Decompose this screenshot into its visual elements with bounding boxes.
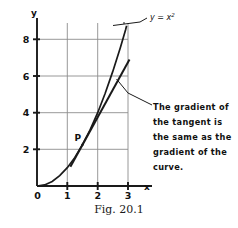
leader-annotation-path [117,79,153,105]
annotation-text-block: The gradient of the tangent is the same … [153,102,232,172]
vertical-gridlines [67,23,128,186]
y-tick-label-6: 6 [23,71,30,82]
curve-label-leader [113,18,147,26]
curve-equation-label: y = x2 [149,12,175,23]
x-tick-label-1: 1 [64,190,71,201]
horizontal-gridlines [37,39,128,149]
y-tick-label-8: 8 [23,34,30,45]
curve-equation-base: y = x [149,13,172,22]
annotation-line-2: the tangent is [153,117,222,127]
graph-svg: 2 4 6 8 0 1 2 3 y x P y = x2 The gradien… [0,0,238,228]
point-p-marker [81,144,83,146]
annotation-line-1: The gradient of [153,102,229,112]
figure-caption: Fig. 20.1 [0,203,238,216]
curve-equation-exponent: 2 [171,12,175,18]
x-tick-label-3: 3 [125,190,132,201]
figure-graph-tangent: 2 4 6 8 0 1 2 3 y x P y = x2 The gradien… [0,0,238,228]
y-tick-label-4: 4 [23,107,30,118]
leader-curve-path [113,18,147,26]
point-p-label: P [75,133,82,143]
y-tick-label-2: 2 [23,144,30,155]
x-tick-label-2: 2 [94,190,101,201]
annotation-line-5: curve. [153,162,184,172]
annotation-line-3: the same as the [153,132,232,142]
x-tick-label-0: 0 [34,190,41,201]
x-axis-label: x [144,182,150,192]
curve-y-equals-x-squared [37,26,127,186]
annotation-line-4: gradient of the [153,147,227,157]
y-axis-label: y [31,8,37,18]
